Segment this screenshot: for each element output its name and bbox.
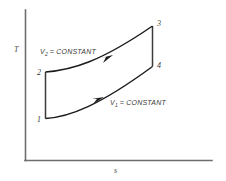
process-curve-1-4 [46,67,153,119]
x-axis-label: s [114,166,117,175]
state-label-4: 4 [157,61,161,70]
process-label-upper-equation: = CONSTANT [50,48,97,55]
process-label-upper-subscript: 2 [44,51,48,57]
process-label-lower-equation: = CONSTANT [120,99,167,106]
process-label-lower-isochore: V1= CONSTANT [110,99,166,108]
ts-diagram-figure: T s 1 2 3 4 V2= CONSTANT V1= CONSTANT [0,0,226,181]
process-label-lower-subscript: 1 [115,102,118,108]
state-label-3: 3 [156,19,161,28]
state-label-2: 2 [37,68,41,77]
arrow-lower-isochore [92,97,104,104]
state-label-1: 1 [37,115,41,124]
process-label-upper-isochore: V2= CONSTANT [40,48,96,57]
y-axis-label: T [14,45,19,54]
